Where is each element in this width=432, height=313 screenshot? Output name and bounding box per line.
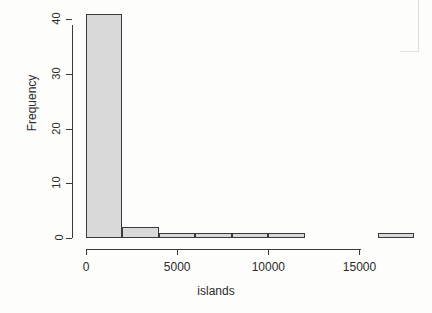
x-axis-line (86, 249, 361, 250)
x-axis-tick (86, 249, 87, 255)
histogram-screenshot: 010203040 Frequency 050001000015000 isla… (0, 0, 432, 313)
y-axis-tick (66, 129, 72, 130)
x-axis-title: islands (0, 284, 432, 298)
y-axis-tick-label: 0 (0, 232, 62, 243)
y-axis-tick (66, 238, 72, 239)
histogram-bar (232, 233, 268, 238)
y-axis-line (72, 25, 73, 238)
y-axis-tick-label: 10 (0, 177, 62, 188)
x-axis-tick (359, 249, 360, 255)
y-axis-title: Frequency (25, 63, 39, 143)
histogram-bar (122, 227, 158, 238)
y-axis-tick (66, 19, 72, 20)
plot-panel (86, 14, 416, 238)
x-axis-tick (177, 249, 178, 255)
histogram-plot: 010203040 Frequency 050001000015000 isla… (0, 0, 432, 313)
x-axis-tick (268, 249, 269, 255)
y-axis-tick (66, 74, 72, 75)
x-axis-tick-label: 10000 (238, 260, 298, 274)
y-axis-tick-label: 40 (0, 13, 62, 24)
x-axis-tick-label: 15000 (329, 260, 389, 274)
x-axis-tick-label: 0 (56, 260, 116, 274)
histogram-bar (268, 233, 304, 238)
x-axis-tick-label: 5000 (147, 260, 207, 274)
histogram-bar (378, 233, 414, 238)
histogram-bar (86, 14, 122, 238)
histogram-bar (159, 233, 195, 238)
y-axis-tick (66, 183, 72, 184)
histogram-bar (195, 233, 231, 238)
